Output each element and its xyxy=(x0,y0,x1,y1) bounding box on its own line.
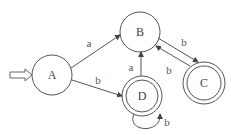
edge-c-to-b xyxy=(156,46,190,66)
edge-d-self-loop xyxy=(133,114,160,129)
edge-d-to-b-label: a xyxy=(129,62,134,73)
edge-a-to-b xyxy=(71,35,120,68)
automaton-diagram: A B C D a b a b b b xyxy=(0,0,231,135)
state-b-label: B xyxy=(136,26,144,38)
edge-d-self-loop-label: b xyxy=(164,117,170,128)
start-arrow xyxy=(10,69,32,81)
state-a-label: A xyxy=(48,69,57,81)
state-c-label: C xyxy=(200,77,208,89)
edge-c-to-b-label: b xyxy=(166,65,172,76)
edge-b-to-c-label: b xyxy=(181,37,187,48)
state-d-label: D xyxy=(138,90,147,102)
diagram-graphics xyxy=(0,0,231,135)
edge-a-to-d-label: b xyxy=(95,75,101,86)
edge-a-to-b-label: a xyxy=(87,38,92,49)
